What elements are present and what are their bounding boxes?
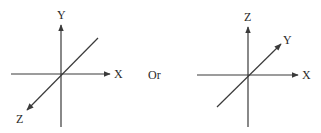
right-coordinate-system: Z X Y <box>197 10 311 127</box>
left-z-label: Z <box>16 112 23 126</box>
coordinate-systems-diagram: Y X Z Or Z X Y <box>0 0 321 133</box>
right-z-label: Z <box>244 10 251 24</box>
right-y-label: Y <box>283 33 292 47</box>
left-y-label: Y <box>57 8 66 22</box>
or-separator: Or <box>148 68 161 82</box>
left-x-label: X <box>114 67 123 81</box>
right-x-label: X <box>302 68 311 82</box>
left-coordinate-system: Y X Z <box>11 8 123 127</box>
